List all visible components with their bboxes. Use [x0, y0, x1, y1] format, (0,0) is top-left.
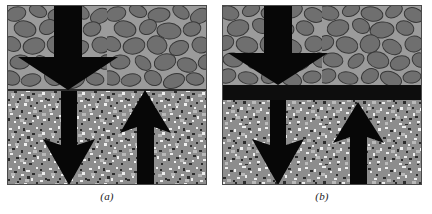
- geotextile-separator-b: [222, 85, 422, 100]
- panel-b-illustration: [222, 5, 422, 185]
- panel-a-illustration: [7, 5, 207, 185]
- soil-layer-a: [7, 90, 207, 185]
- gravel-layer-b: [222, 5, 422, 85]
- panel-a: [7, 5, 207, 185]
- caption-panel-b: (b): [222, 189, 422, 203]
- figure-root: (a): [0, 0, 432, 214]
- panel-b: [222, 5, 422, 185]
- interface-line-a: [7, 89, 207, 91]
- gravel-layer-a: [7, 5, 207, 90]
- caption-panel-a: (a): [7, 189, 207, 203]
- soil-layer-b: [222, 100, 422, 185]
